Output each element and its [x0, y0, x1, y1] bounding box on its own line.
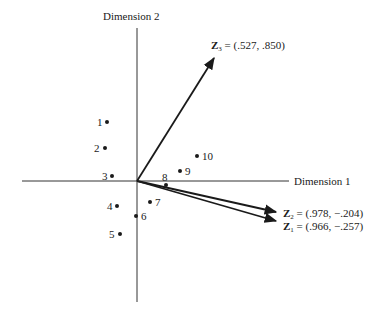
vector-z1-label: Z1 = (.966, −.257): [283, 220, 363, 234]
svg-text:7: 7: [155, 196, 161, 208]
data-point-10: 10: [195, 150, 214, 162]
svg-text:10: 10: [202, 150, 214, 162]
svg-text:8: 8: [162, 171, 168, 183]
svg-text:9: 9: [185, 165, 191, 177]
svg-text:2: 2: [94, 142, 100, 154]
svg-text:5: 5: [109, 228, 115, 240]
svg-text:3: 3: [102, 170, 108, 182]
data-point-4: 4: [107, 200, 119, 212]
data-point-1: 1: [97, 116, 109, 128]
y-axis-label: Dimension 2: [103, 10, 160, 22]
svg-text:6: 6: [141, 210, 147, 222]
data-point-8: 8: [162, 171, 168, 187]
data-point-2: 2: [94, 142, 107, 154]
vector-z2-label: Z2 = (.978, −.204): [283, 207, 363, 221]
x-axis-label: Dimension 1: [294, 175, 351, 187]
svg-text:1: 1: [97, 116, 103, 128]
data-point-6: 6: [134, 210, 147, 222]
data-point-5: 5: [109, 228, 122, 240]
factor-loading-diagram: Dimension 2 Dimension 1 Z3 = (.527, .850…: [0, 0, 381, 314]
vector-z3-arrow: [137, 58, 214, 181]
data-point-9: 9: [178, 165, 191, 177]
svg-text:4: 4: [107, 200, 113, 212]
data-point-3: 3: [102, 170, 114, 182]
data-point-7: 7: [148, 196, 161, 208]
vector-z3-label: Z3 = (.527, .850): [211, 39, 285, 53]
